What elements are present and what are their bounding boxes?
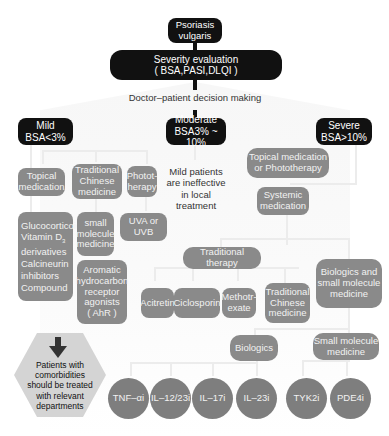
derivatives: derivatives (21, 246, 81, 258)
subscript: 3 (62, 238, 65, 244)
small-molecule-medicine-node: smallmoleculemedicine (77, 212, 114, 256)
methotrexate-node: Methotr-exate (222, 288, 256, 318)
connector (146, 150, 148, 164)
label: IL–12/23i (151, 393, 190, 404)
label: TNF–αi (113, 393, 144, 404)
connector (302, 360, 304, 376)
connector (355, 144, 357, 184)
label: Small molecule (314, 336, 378, 347)
label: hydrocarbon (76, 276, 129, 287)
label: medicine (75, 187, 119, 198)
label: medication (260, 201, 306, 212)
connector (254, 328, 350, 330)
ahr-agonists-node: Aromatichydrocarbonreceptoragonists( AhR… (77, 260, 127, 324)
topical-drugs-list-node: Glucocorticoid Vitamin D3 derivatives Ca… (18, 212, 73, 301)
il-12-23-inhibitor-node: IL–12/23i (150, 378, 191, 419)
topical-or-phototherapy-node: Topical medicationor Phototherapy (247, 148, 329, 178)
label: comorbidities (27, 370, 93, 380)
severe-label: Severe (321, 120, 367, 132)
severity-label-2: ( BSA,PASI,DLQI ) (154, 65, 239, 77)
label: Traditional (265, 287, 309, 298)
decision-making-label: Doctor–patient decision making (120, 92, 270, 103)
connector (170, 362, 172, 376)
connector (220, 238, 350, 240)
biologics-and-small-molecule-node: Biologics andsmall moleculemedicine (316, 259, 382, 308)
label: Traditional therapy (183, 247, 261, 269)
il-23-inhibitor-node: IL–23i (236, 378, 277, 419)
severity-evaluation-node: Severity evaluation( BSA,PASI,DLQI ) (110, 50, 282, 80)
label: Aromatic (76, 265, 129, 276)
vitamin-d3: Vitamin D3 (21, 231, 81, 245)
label: medicine (318, 289, 381, 300)
small-molecule-severe-node: Small moleculemedicine (313, 333, 379, 360)
connector (348, 238, 350, 260)
connector (95, 197, 97, 213)
label: Vitamin D (21, 231, 62, 242)
root-label-1: Psoriasis (176, 20, 215, 31)
severe-node: SevereBSA>10% (316, 118, 372, 145)
connector (302, 360, 350, 362)
tyk2-inhibitor-node: TYK2i (286, 378, 327, 419)
connector (130, 362, 258, 364)
label: or Phototherapy (249, 163, 327, 174)
connector (145, 197, 147, 211)
down-arrow-icon (48, 337, 68, 359)
connector (212, 362, 214, 376)
il-17-inhibitor-node: IL–17i (192, 378, 233, 419)
label: ( AhR ) (76, 308, 129, 319)
connector (237, 267, 239, 281)
label: in local treatment (160, 189, 232, 212)
moderate-bsa: BSA3% ~ 10% (166, 126, 226, 149)
severe-traditional-chinese-medicine-node: TraditionalChinesemedicine (265, 283, 310, 323)
label: medicine (76, 239, 114, 250)
label: TYK2i (294, 393, 320, 404)
label: Photot- (127, 171, 158, 182)
uva-uvb-node: UVA orUVB (120, 213, 167, 241)
label: PDE4i (337, 393, 364, 404)
label: medicine (265, 308, 309, 319)
label: herapy (127, 182, 158, 193)
label: departments (27, 401, 93, 411)
inhibitors: inhibitors (21, 270, 81, 282)
severe-bsa: BSA>10% (321, 132, 367, 144)
connector (346, 360, 348, 376)
tnf-alpha-inhibitor-node: TNF–αi (108, 378, 149, 419)
label: should be treated (27, 380, 93, 390)
label: UVB (129, 227, 158, 238)
label: medication (19, 182, 65, 193)
connector (154, 267, 156, 281)
compound: Compound (21, 282, 81, 294)
label: with relevant (27, 391, 93, 401)
calcineurin: Calcineurin (21, 258, 81, 270)
root-node: Psoriasisvulgaris (168, 18, 222, 43)
biologics-node: Biologics (230, 335, 278, 361)
label: IL–17i (200, 393, 226, 404)
label: Ciclosporin (174, 298, 221, 309)
label: Acitretin (140, 298, 174, 309)
comorbidity-note: Patients with comorbidities should be tr… (27, 360, 93, 411)
label: Patients with (27, 360, 93, 370)
connector (290, 183, 357, 185)
label: IL–23i (244, 393, 270, 404)
mild-node: MildBSA<3% (18, 118, 73, 145)
connector (95, 150, 97, 162)
root-label-2: vulgaris (176, 31, 215, 42)
acitretin-node: Acitretin (141, 288, 174, 318)
topical-medication-node: Topicalmedication (18, 168, 65, 196)
traditional-chinese-medicine-node: TraditionalChinesemedicine (72, 164, 122, 199)
label: Mild patients (160, 166, 232, 177)
systemic-medication-node: Systemicmedication (257, 187, 309, 215)
moderate-label: Moderate (166, 114, 226, 126)
mild-label: Mild (25, 120, 65, 132)
label: small (76, 218, 114, 229)
ciclosporin-node: Ciclosporin (174, 288, 220, 318)
glucocorticoid: Glucocorticoid (21, 220, 81, 232)
connector (42, 150, 44, 164)
label: medicine (314, 347, 378, 358)
severity-label-1: Severity evaluation (154, 54, 239, 66)
mild-bsa: BSA<3% (25, 132, 65, 144)
connector (192, 267, 194, 281)
phototherapy-node: Photot-herapy (127, 166, 157, 197)
moderate-node: ModerateBSA3% ~ 10% (166, 118, 226, 145)
moderate-note: Mild patients are ineffective in local t… (160, 166, 232, 212)
